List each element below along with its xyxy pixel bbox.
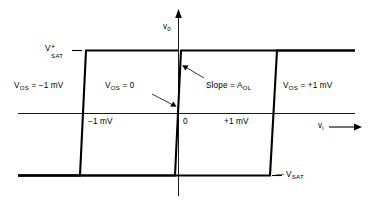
x-tick-label-plus-1mv: +1 mV — [224, 118, 249, 126]
transfer-characteristic-figure: V+SAT VSAT — v0 vi −1 mV 0 +1 mV VOS = −… — [0, 0, 369, 213]
negative-saturation-label: VSAT — [286, 171, 304, 179]
annotation-vos-zero-value: = 0 — [120, 81, 134, 90]
annotation-slope: Slope = AOL — [206, 82, 251, 90]
vos-zero-leader-line — [152, 94, 173, 105]
positive-saturation-label: V+SAT — [45, 45, 51, 53]
x-axis-label-subscript: i — [322, 124, 324, 131]
annotation-vos-positive-value: = +1 mV — [298, 81, 332, 90]
annotation-vos-positive-base: V — [283, 81, 289, 90]
curve-vos-positive-1mv — [18, 51, 355, 176]
annotation-vos-negative-subscript: OS — [20, 84, 29, 91]
annotation-vos-zero-subscript: OS — [111, 84, 120, 91]
annotation-vos-negative-value: = −1 mV — [29, 81, 63, 90]
y-axis-label: v0 — [163, 23, 171, 31]
annotation-vos-positive-subscript: OS — [289, 84, 298, 91]
negative-saturation-dash: — — [276, 171, 284, 179]
annotation-vos-zero: VOS = 0 — [105, 82, 135, 90]
curve-vos-negative-1mv — [18, 51, 178, 176]
x-tick-label-zero: 0 — [183, 118, 188, 126]
plot-canvas — [0, 0, 369, 213]
y-axis-label-subscript: 0 — [167, 25, 171, 32]
annotation-slope-base: Slope = A — [206, 81, 243, 90]
positive-saturation-superscript: + — [51, 43, 55, 50]
positive-saturation-subscript: SAT — [51, 53, 63, 59]
annotation-vos-negative-base: V — [14, 81, 20, 90]
annotation-slope-subscript: OL — [243, 84, 252, 91]
slope-leader-line — [186, 67, 205, 78]
x-tick-label-minus-1mv: −1 mV — [88, 118, 113, 126]
annotation-vos-negative-1mv: VOS = −1 mV — [14, 82, 63, 90]
negative-saturation-subscript: SAT — [292, 173, 304, 180]
curve-vos-zero — [18, 51, 355, 176]
positive-saturation-base: V — [45, 44, 51, 53]
annotation-vos-positive-1mv: VOS = +1 mV — [283, 82, 332, 90]
y-axis-arrow-head — [175, 9, 182, 18]
x-axis-label: vi — [318, 122, 324, 130]
x-axis-arrow-head — [354, 123, 362, 130]
negative-saturation-base: V — [286, 170, 292, 179]
annotation-vos-zero-base: V — [105, 81, 111, 90]
